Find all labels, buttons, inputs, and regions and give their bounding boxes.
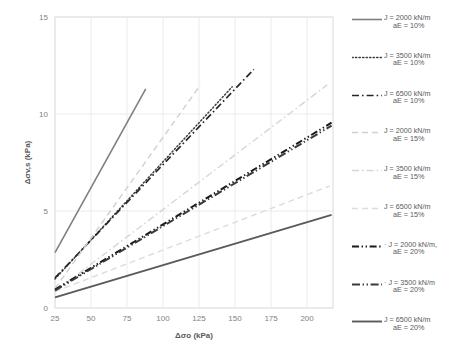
legend-label: J = 6500 kN/maE = 20% <box>382 316 431 331</box>
y-axis-tick-label: 0 <box>44 304 49 313</box>
x-axis-tick-label: 100 <box>156 314 170 323</box>
legend-label-line2: aE = 15% <box>384 211 431 219</box>
plot-area-border <box>55 17 333 308</box>
legend-item[interactable]: · J = 2000 kN/m,aE = 20% <box>352 241 448 279</box>
legend-line-swatch <box>352 280 382 289</box>
y-axis-tick-label: 5 <box>44 207 49 216</box>
legend-label: J = 6500 kN/maE = 15% <box>382 203 431 218</box>
x-axis-tick-label: 75 <box>123 314 132 323</box>
legend-label-line2: aE = 15% <box>384 135 431 143</box>
legend-line-swatch <box>352 128 382 137</box>
chart-root: 255075100125150175200051015Δσo (kPa)Δσv,… <box>0 0 450 364</box>
legend-line-swatch <box>352 53 382 62</box>
legend-label-line2: aE = 15% <box>384 173 431 181</box>
legend-label: · J = 3500 kN/maE = 20% <box>382 279 435 294</box>
x-axis-tick-label: 125 <box>192 314 206 323</box>
x-axis-tick-label: 50 <box>87 314 96 323</box>
chart-legend: J = 2000 kN/maE = 10%J = 3500 kN/maE = 1… <box>352 14 448 354</box>
legend-label: J = 3500 kN/maE = 10% <box>382 52 431 67</box>
legend-line-swatch <box>352 204 382 213</box>
legend-label-line2: aE = 20% <box>384 324 431 332</box>
legend-label-line2: aE = 10% <box>384 59 431 67</box>
x-axis-tick-label: 175 <box>264 314 278 323</box>
legend-item[interactable]: J = 6500 kN/maE = 15% <box>352 203 448 241</box>
legend-label: J = 2000 kN/maE = 15% <box>382 127 431 142</box>
legend-item[interactable]: J = 3500 kN/maE = 10% <box>352 52 448 90</box>
legend-label: · J = 2000 kN/m,aE = 20% <box>382 241 437 256</box>
x-axis-title: Δσo (kPa) <box>175 331 213 340</box>
legend-label: J = 3500 kN/maE = 15% <box>382 165 431 180</box>
legend-item[interactable]: · J = 3500 kN/maE = 20% <box>352 279 448 317</box>
x-axis-tick-label: 200 <box>300 314 314 323</box>
legend-line-swatch <box>352 91 382 100</box>
legend-label-line2: aE = 20% <box>384 248 437 256</box>
y-axis-title: Δσv,s (kPa) <box>23 140 32 184</box>
legend-line-swatch <box>352 166 382 175</box>
legend-item[interactable]: J = 6500 kN/maE = 20% <box>352 316 448 354</box>
y-axis-tick-label: 10 <box>39 110 48 119</box>
legend-line-swatch <box>352 242 382 251</box>
legend-item[interactable]: J = 3500 kN/maE = 15% <box>352 165 448 203</box>
legend-label-line2: aE = 10% <box>384 97 431 105</box>
legend-label: J = 6500 kN/maE = 10% <box>382 90 431 105</box>
legend-item[interactable]: J = 2000 kN/maE = 10% <box>352 14 448 52</box>
y-axis-tick-label: 15 <box>39 13 48 22</box>
legend-line-swatch <box>352 317 382 326</box>
x-axis-tick-label: 25 <box>51 314 60 323</box>
legend-label-line2: aE = 20% <box>384 286 435 294</box>
legend-item[interactable]: J = 2000 kN/maE = 15% <box>352 127 448 165</box>
x-axis-tick-label: 150 <box>228 314 242 323</box>
legend-item[interactable]: J = 6500 kN/maE = 10% <box>352 90 448 128</box>
legend-label-line2: aE = 10% <box>384 22 431 30</box>
legend-line-swatch <box>352 15 382 24</box>
legend-label: J = 2000 kN/maE = 10% <box>382 14 431 29</box>
